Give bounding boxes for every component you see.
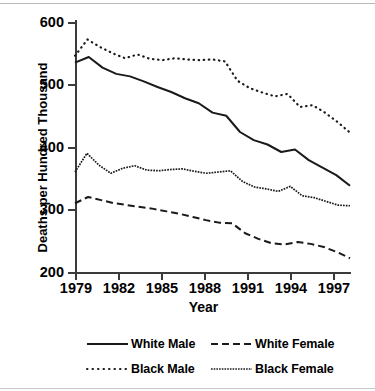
legend-swatch-dashed-icon bbox=[210, 339, 253, 349]
y-tick-mark-500 bbox=[68, 84, 75, 86]
series-line-black-male bbox=[75, 40, 350, 133]
legend-swatch-fine-dotted-icon bbox=[210, 364, 253, 374]
bottom-divider bbox=[0, 388, 375, 389]
chart-legend: White Male White Female Black Male Black… bbox=[86, 331, 362, 381]
legend-swatch-solid-icon bbox=[86, 339, 129, 349]
y-tick-label-300: 300 bbox=[16, 202, 64, 217]
y-tick-mark-300 bbox=[68, 209, 75, 211]
legend-label-white-female: White Female bbox=[255, 337, 334, 351]
x-tick-label-1997: 1997 bbox=[304, 281, 364, 296]
x-axis-title: Year bbox=[0, 299, 375, 315]
series-canvas bbox=[75, 22, 350, 272]
top-divider bbox=[0, 3, 375, 4]
legend-item-white-male: White Male bbox=[86, 337, 210, 351]
y-tick-mark-600 bbox=[68, 22, 75, 24]
y-tick-label-400: 400 bbox=[16, 140, 64, 155]
legend-label-black-female: Black Female bbox=[255, 362, 334, 376]
series-line-white-female bbox=[75, 197, 350, 258]
legend-label-white-male: White Male bbox=[131, 337, 195, 351]
y-tick-label-200: 200 bbox=[16, 265, 64, 280]
chart-figure: Deaths per Hundred Thousand 600 500 400 … bbox=[0, 0, 375, 391]
legend-item-white-female: White Female bbox=[210, 337, 362, 351]
y-tick-mark-400 bbox=[68, 147, 75, 149]
series-line-white-male bbox=[75, 57, 350, 186]
plot-area bbox=[75, 22, 350, 272]
y-tick-label-600: 600 bbox=[16, 15, 64, 30]
y-tick-label-500: 500 bbox=[16, 77, 64, 92]
x-axis-line bbox=[74, 272, 351, 274]
legend-item-black-male: Black Male bbox=[86, 362, 210, 376]
legend-label-black-male: Black Male bbox=[131, 362, 195, 376]
legend-item-black-female: Black Female bbox=[210, 362, 362, 376]
y-axis-title: Deaths per Hundred Thousand bbox=[35, 23, 50, 293]
legend-swatch-dotted-icon bbox=[86, 364, 129, 374]
